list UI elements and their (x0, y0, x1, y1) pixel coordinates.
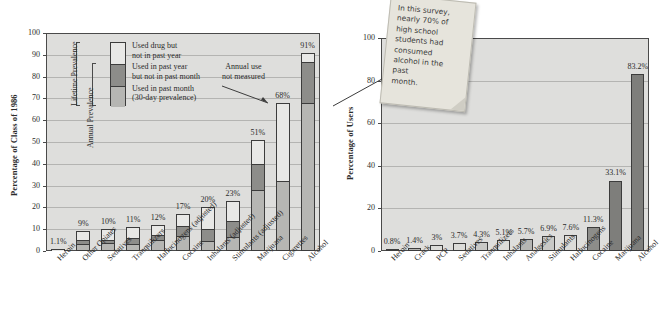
sticky-note-text: In this survey, nearly 70% of high schoo… (391, 3, 469, 92)
bar-segment (252, 164, 264, 190)
y-tick-mark (43, 229, 46, 230)
bar-segment (77, 240, 89, 244)
y-tick-label: 100 (351, 34, 375, 42)
y-tick-label: 20 (351, 204, 375, 212)
y-tick-mark (43, 164, 46, 165)
y-tick-mark (378, 251, 381, 252)
y-tick-mark (43, 186, 46, 187)
y-tick-mark (378, 208, 381, 209)
y-tick-label: 70 (16, 94, 40, 102)
bar-value-label: 7.6% (551, 224, 591, 232)
brace-label-annual-prevalence: Annual Prevalence (86, 87, 95, 148)
y-tick-label: 0 (16, 247, 40, 255)
gridline (382, 166, 648, 167)
y-tick-label: 0 (351, 247, 375, 255)
bar-alcohol (631, 74, 644, 251)
y-tick-label: 60 (16, 116, 40, 124)
bar-segment (302, 62, 314, 103)
bar-segment (202, 229, 214, 240)
y-tick-mark (43, 77, 46, 78)
y-tick-mark (43, 33, 46, 34)
y-tick-mark (43, 120, 46, 121)
y-tick-label: 60 (351, 119, 375, 127)
bar-alcohol (301, 53, 315, 251)
y-tick-mark (43, 207, 46, 208)
gridline (382, 123, 648, 124)
bar-value-label: 11.3% (573, 216, 613, 224)
legend-swatch-past-year-not-past-month (111, 64, 125, 85)
bar-value-label: 51% (238, 129, 278, 137)
y-tick-label: 40 (351, 162, 375, 170)
bar-value-label: 12% (138, 214, 178, 222)
bar-value-label: 91% (288, 42, 328, 50)
bar-segment (302, 54, 314, 63)
annotation-leader-line (216, 72, 276, 106)
sticky-note: In this survey, nearly 70% of high schoo… (379, 0, 476, 112)
y-tick-mark (43, 98, 46, 99)
y-tick-label: 20 (16, 203, 40, 211)
bar-value-label: 33.1% (596, 169, 636, 177)
y-tick-label: 50 (16, 138, 40, 146)
bar-segment (252, 141, 264, 165)
brace-label-lifetime-prevalence: Lifetime Prevalence (70, 41, 79, 106)
legend-swatch-used-drug-not-past-year (111, 43, 125, 64)
y-tick-mark (378, 38, 381, 39)
y-tick-label: 100 (16, 29, 40, 37)
bar-segment (77, 232, 89, 240)
sticky-note-fold-corner (450, 96, 465, 111)
bar-segment (227, 202, 239, 221)
left-chart-panel: Percentage of Class of 1986 010203040506… (0, 0, 335, 331)
y-tick-label: 80 (16, 73, 40, 81)
legend-swatch-past-month (111, 86, 125, 107)
y-tick-label: 90 (16, 51, 40, 59)
legend-row-2: Used in past month (30-day prevalence) (132, 84, 224, 105)
legend-row-1: Used in past year but not in past month (132, 62, 224, 83)
y-tick-mark (378, 166, 381, 167)
legend: Used drug but not in past year Used in p… (110, 42, 222, 106)
y-tick-label: 10 (16, 225, 40, 233)
y-tick-mark (43, 251, 46, 252)
bar-segment (277, 104, 289, 181)
y-tick-label: 30 (16, 182, 40, 190)
legend-swatch-stack (110, 42, 126, 106)
y-tick-mark (43, 142, 46, 143)
bar-value-label: 23% (213, 190, 253, 198)
bar-segment (302, 103, 314, 250)
legend-labels: Used drug but not in past year Used in p… (132, 41, 224, 105)
y-tick-mark (43, 55, 46, 56)
bar-value-label: 83.2% (618, 63, 658, 71)
y-tick-mark (378, 123, 381, 124)
figure-two-bar-charts: Percentage of Class of 1986 010203040506… (0, 0, 665, 331)
legend-row-0: Used drug but not in past year (132, 41, 224, 62)
bar-cigarettes (276, 103, 290, 251)
y-tick-label: 40 (16, 160, 40, 168)
